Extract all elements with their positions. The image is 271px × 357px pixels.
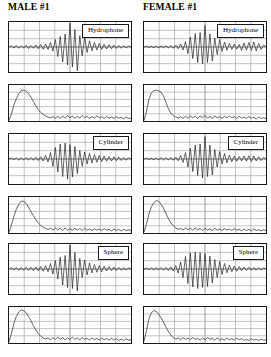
column-title-male: MALE #1 (8, 2, 50, 12)
figure-root: MALE #1 Hydrophone Cylinder Sphere FEMAL… (0, 0, 271, 357)
panel-label-cylinder-male: Cylinder (93, 136, 130, 150)
spectrum-panel-male-hydrophone (8, 84, 132, 122)
cell-female-cylinder: Cylinder (143, 133, 267, 234)
column-female-1: FEMALE #1 Hydrophone Cylinder Sphere (135, 0, 268, 357)
cell-female-sphere: Sphere (143, 243, 267, 344)
column-title-female: FEMALE #1 (143, 2, 197, 12)
panel-label-sphere-male: Sphere (98, 246, 129, 260)
waveform-panel-female-sphere: Sphere (143, 243, 267, 295)
spectrum-panel-female-sphere (143, 306, 267, 344)
waveform-panel-female-cylinder: Cylinder (143, 133, 267, 185)
waveform-panel-male-cylinder: Cylinder (8, 133, 132, 185)
cell-male-cylinder: Cylinder (8, 133, 132, 234)
waveform-panel-male-sphere: Sphere (8, 243, 132, 295)
panel-label-hydrophone-female: Hydrophone (217, 24, 264, 38)
panel-label-cylinder-female: Cylinder (228, 136, 265, 150)
waveform-panel-male-hydrophone: Hydrophone (8, 21, 132, 73)
spectrum-panel-male-sphere (8, 306, 132, 344)
spectrum-panel-female-cylinder (143, 196, 267, 234)
cell-male-hydrophone: Hydrophone (8, 21, 132, 122)
panel-label-hydrophone-male: Hydrophone (82, 24, 129, 38)
panel-label-sphere-female: Sphere (233, 246, 264, 260)
column-male-1: MALE #1 Hydrophone Cylinder Sphere (0, 0, 133, 357)
cell-female-hydrophone: Hydrophone (143, 21, 267, 122)
spectrum-panel-female-hydrophone (143, 84, 267, 122)
waveform-panel-female-hydrophone: Hydrophone (143, 21, 267, 73)
spectrum-panel-male-cylinder (8, 196, 132, 234)
cell-male-sphere: Sphere (8, 243, 132, 344)
